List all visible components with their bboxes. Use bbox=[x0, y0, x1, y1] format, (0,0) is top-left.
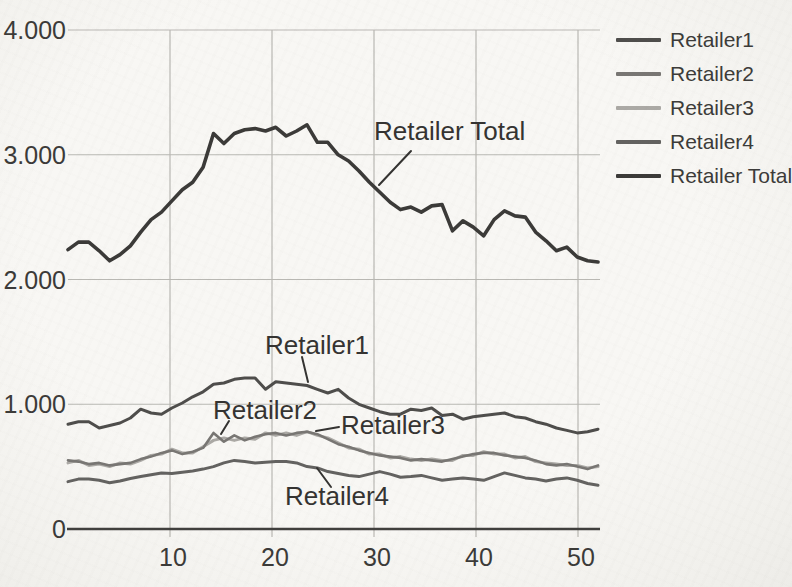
legend-line-icon bbox=[616, 38, 661, 42]
legend-item-retailer2: Retailer2 bbox=[616, 64, 792, 84]
series-line-retailer2 bbox=[68, 432, 598, 469]
series-line-retailer1 bbox=[68, 378, 598, 433]
legend-label: Retailer4 bbox=[670, 130, 754, 154]
legend-line-icon bbox=[616, 72, 661, 76]
annotation-retailer3: Retailer3 bbox=[341, 412, 445, 439]
x-tick-label: 20 bbox=[261, 543, 289, 571]
x-tick-label: 40 bbox=[465, 543, 493, 571]
legend-label: Retailer Total bbox=[670, 164, 792, 188]
scanned-line-chart-figure: 01.0002.0003.0004.0001020304050 Retailer… bbox=[0, 0, 792, 587]
chart-legend: Retailer1 Retailer2 Retailer3 Retailer4 … bbox=[616, 30, 792, 186]
x-tick-label: 30 bbox=[363, 543, 391, 571]
x-tick-label: 10 bbox=[159, 543, 187, 571]
legend-label: Retailer1 bbox=[670, 28, 754, 52]
legend-line-icon bbox=[616, 174, 661, 179]
y-tick-label: 2.000 bbox=[3, 266, 66, 294]
annotation-retailer4: Retailer4 bbox=[285, 483, 389, 510]
annotation-retailer2: Retailer2 bbox=[213, 397, 317, 424]
legend-label: Retailer2 bbox=[670, 62, 754, 86]
y-tick-label: 1.000 bbox=[3, 390, 66, 418]
legend-item-retailer4: Retailer4 bbox=[616, 132, 792, 152]
gridlines bbox=[68, 30, 600, 537]
legend-item-retailer3: Retailer3 bbox=[616, 98, 792, 118]
legend-item-retailer-total: Retailer Total bbox=[616, 166, 792, 186]
legend-item-retailer1: Retailer1 bbox=[616, 30, 792, 50]
annotation-leader-line bbox=[316, 427, 339, 431]
annotation-retailer1: Retailer1 bbox=[265, 332, 369, 359]
series-line-retailer3 bbox=[68, 432, 598, 468]
y-tick-label: 3.000 bbox=[3, 141, 66, 169]
annotation-leader-line bbox=[302, 357, 308, 382]
legend-label: Retailer3 bbox=[670, 96, 754, 120]
y-tick-label: 4.000 bbox=[3, 16, 66, 44]
annotation-leader-line bbox=[379, 151, 411, 185]
annotation-retailer-total: Retailer Total bbox=[374, 118, 525, 145]
legend-line-icon bbox=[616, 140, 661, 144]
x-tick-label: 50 bbox=[567, 543, 595, 571]
y-tick-label: 0 bbox=[52, 515, 66, 543]
legend-line-icon bbox=[616, 106, 661, 110]
